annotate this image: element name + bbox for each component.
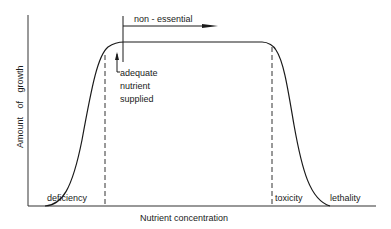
non-essential-label: non - essential — [134, 14, 193, 24]
nutrient-label: nutrient — [120, 81, 151, 91]
growth-curve — [45, 42, 330, 206]
growth-response-diagram: non - essential adequate nutrient suppli… — [0, 0, 391, 229]
arrow-up-icon — [115, 52, 119, 60]
toxicity-label: toxicity — [275, 193, 303, 203]
arrow-right-icon — [202, 24, 218, 28]
supplied-label: supplied — [120, 94, 154, 104]
adequate-label: adequate — [120, 68, 158, 78]
lethality-label: lethality — [330, 193, 361, 203]
deficiency-label: deficiency — [47, 193, 88, 203]
y-axis-label: Amount of growth — [15, 65, 25, 148]
x-axis-label: Nutrient concentration — [140, 213, 228, 223]
